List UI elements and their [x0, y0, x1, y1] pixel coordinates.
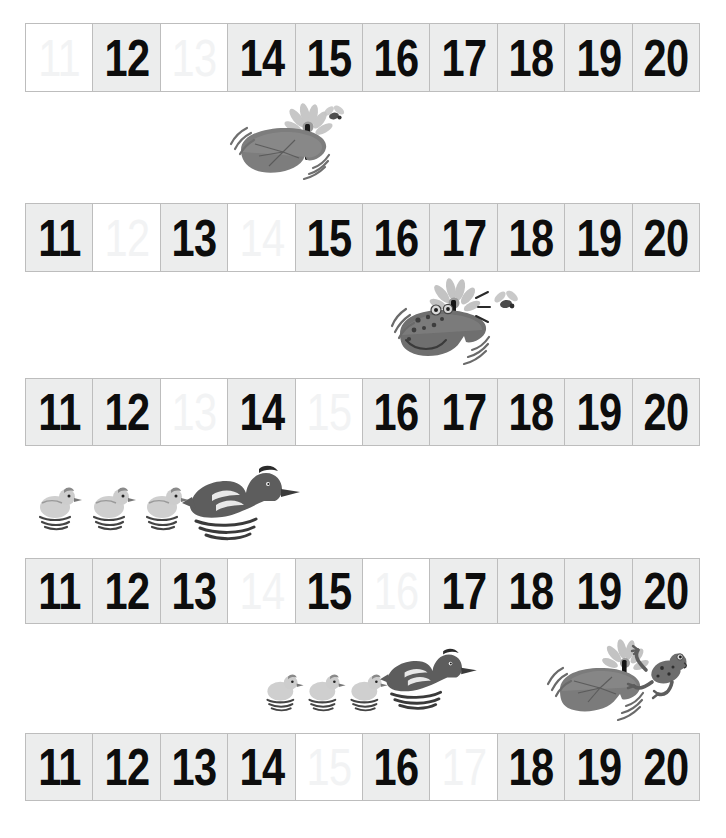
number-label: 20 — [644, 32, 689, 84]
number-line-row: 11 12 13 14 15 16 17 18 19 20 — [25, 378, 700, 446]
number-cell[interactable]: 11 — [25, 378, 93, 446]
number-label: 18 — [509, 386, 554, 438]
number-cell[interactable]: 18 — [497, 558, 565, 624]
number-cell[interactable]: 17 — [429, 23, 497, 92]
number-label: 16 — [374, 565, 419, 617]
number-cell[interactable]: 14 — [227, 733, 295, 801]
number-cell[interactable]: 17 — [429, 733, 497, 801]
number-label: 11 — [38, 212, 80, 264]
number-cell[interactable]: 15 — [295, 378, 363, 446]
number-label: 13 — [172, 386, 217, 438]
number-cell[interactable]: 14 — [227, 203, 295, 272]
number-cell[interactable]: 11 — [25, 23, 93, 92]
number-label: 11 — [38, 741, 80, 793]
number-cell[interactable]: 11 — [25, 558, 93, 624]
number-cell[interactable]: 16 — [362, 378, 430, 446]
number-cell[interactable]: 19 — [564, 558, 632, 624]
number-cell[interactable]: 16 — [362, 23, 430, 92]
number-label: 15 — [306, 386, 351, 438]
frog-jumping-onto-lily-pad-icon — [548, 640, 688, 730]
number-cell[interactable]: 13 — [160, 733, 228, 801]
number-cell[interactable]: 12 — [92, 558, 160, 624]
number-cell[interactable]: 13 — [160, 203, 228, 272]
number-cell[interactable]: 19 — [564, 378, 632, 446]
number-label: 16 — [374, 32, 419, 84]
number-cell[interactable]: 17 — [429, 558, 497, 624]
number-cell[interactable]: 11 — [25, 203, 93, 272]
number-cell[interactable]: 12 — [92, 733, 160, 801]
number-cell[interactable]: 13 — [160, 378, 228, 446]
number-label: 14 — [239, 212, 284, 264]
number-label: 15 — [306, 32, 351, 84]
number-cell[interactable]: 16 — [362, 203, 430, 272]
number-cell[interactable]: 20 — [632, 733, 700, 801]
number-cell[interactable]: 14 — [227, 558, 295, 624]
number-line-row: 11 12 13 14 15 16 17 18 19 20 — [25, 23, 700, 92]
frog-on-lily-pad-catching-fly-icon — [390, 278, 535, 376]
number-cell[interactable]: 20 — [632, 23, 700, 92]
number-label: 12 — [104, 741, 149, 793]
number-label: 19 — [576, 212, 621, 264]
number-cell[interactable]: 19 — [564, 733, 632, 801]
number-label: 17 — [441, 565, 486, 617]
number-cell[interactable]: 20 — [632, 558, 700, 624]
number-label: 12 — [104, 565, 149, 617]
number-cell[interactable]: 16 — [362, 558, 430, 624]
number-cell[interactable]: 18 — [497, 733, 565, 801]
number-cell[interactable]: 19 — [564, 203, 632, 272]
number-label: 18 — [509, 212, 554, 264]
number-label: 18 — [509, 565, 554, 617]
number-cell[interactable]: 17 — [429, 203, 497, 272]
duckling — [40, 487, 82, 529]
number-cell[interactable]: 15 — [295, 558, 363, 624]
number-label: 13 — [172, 741, 217, 793]
number-cell[interactable]: 12 — [92, 378, 160, 446]
lily-pad-shape — [241, 128, 326, 173]
number-cell[interactable]: 18 — [497, 378, 565, 446]
duckling — [309, 674, 345, 710]
number-cell[interactable]: 14 — [227, 378, 295, 446]
number-label: 20 — [644, 386, 689, 438]
number-cell[interactable]: 20 — [632, 378, 700, 446]
number-label: 16 — [374, 386, 419, 438]
number-label: 15 — [306, 741, 351, 793]
duck-with-three-ducklings-icon — [262, 646, 462, 726]
number-cell[interactable]: 15 — [295, 733, 363, 801]
number-label: 12 — [104, 32, 149, 84]
number-label: 12 — [104, 212, 149, 264]
number-line-row: 11 12 13 14 15 16 17 18 19 20 — [25, 558, 700, 624]
number-cell[interactable]: 20 — [632, 203, 700, 272]
number-cell[interactable]: 12 — [92, 203, 160, 272]
number-cell[interactable]: 19 — [564, 23, 632, 92]
mother-duck — [182, 466, 300, 539]
number-label: 20 — [644, 212, 689, 264]
number-cell[interactable]: 12 — [92, 23, 160, 92]
number-label: 19 — [576, 386, 621, 438]
fly-icon — [492, 289, 519, 309]
number-label: 16 — [374, 741, 419, 793]
number-cell[interactable]: 15 — [295, 203, 363, 272]
number-cell[interactable]: 15 — [295, 23, 363, 92]
lily-pad-with-flower-and-fly-icon — [225, 100, 355, 195]
number-cell[interactable]: 13 — [160, 23, 228, 92]
number-label: 13 — [172, 32, 217, 84]
number-cell[interactable]: 17 — [429, 378, 497, 446]
number-cell[interactable]: 11 — [25, 733, 93, 801]
number-label: 20 — [644, 741, 689, 793]
number-label: 17 — [441, 741, 486, 793]
number-label: 14 — [239, 565, 284, 617]
fly-motion-lines — [476, 292, 490, 322]
number-label: 17 — [441, 32, 486, 84]
number-cell[interactable]: 14 — [227, 23, 295, 92]
duck-with-three-ducklings-icon — [30, 465, 265, 543]
number-cell[interactable]: 16 — [362, 733, 430, 801]
worksheet-page: 11 12 13 14 15 16 17 18 19 20 11 12 13 1… — [0, 0, 726, 838]
number-cell[interactable]: 13 — [160, 558, 228, 624]
number-label: 19 — [576, 741, 621, 793]
number-line-row: 11 12 13 14 15 16 17 18 19 20 — [25, 203, 700, 272]
number-label: 14 — [239, 32, 284, 84]
number-label: 13 — [172, 565, 217, 617]
number-cell[interactable]: 18 — [497, 203, 565, 272]
number-label: 11 — [38, 32, 80, 84]
number-cell[interactable]: 18 — [497, 23, 565, 92]
